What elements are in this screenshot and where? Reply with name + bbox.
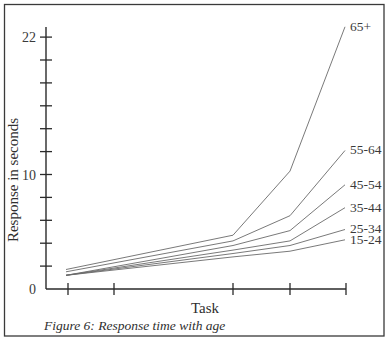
y-axis-title: Response in seconds xyxy=(5,118,21,242)
x-axis-title: Task xyxy=(191,300,220,316)
axes: 01022 xyxy=(22,27,346,297)
series-label: 15-24 xyxy=(350,232,382,247)
y-tick-label: 22 xyxy=(22,30,36,45)
figure-frame xyxy=(5,5,385,337)
series-label: 45-54 xyxy=(350,177,382,192)
series-lines xyxy=(66,27,345,275)
series-label: 55-64 xyxy=(350,142,382,157)
series-label: 35-44 xyxy=(350,200,382,215)
series-line-25-34 xyxy=(66,230,345,276)
series-line-45-54 xyxy=(66,185,345,275)
series-label: 65+ xyxy=(350,19,371,34)
y-tick-label: 10 xyxy=(22,168,36,183)
y-tick-label: 0 xyxy=(29,282,36,297)
series-line-55-64 xyxy=(66,151,345,272)
line-chart: 01022 65+55-6445-5435-4425-3415-24 Respo… xyxy=(0,0,387,340)
figure-caption: Figure 6: Response time with age xyxy=(43,318,225,333)
series-labels: 65+55-6445-5435-4425-3415-24 xyxy=(350,19,382,247)
